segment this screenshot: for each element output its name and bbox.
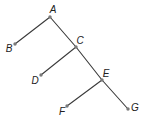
node-g-dot [126,107,129,110]
edge-e-f [67,80,102,106]
tree-diagram: A B C D E F G [0,0,145,121]
edge-e-g [102,80,128,109]
node-label-f: F [59,107,65,117]
edge-a-c [50,17,76,47]
node-label-b: B [6,44,13,54]
node-label-g: G [131,103,139,113]
node-label-e: E [103,69,110,79]
node-d-dot [39,73,42,76]
node-label-c: C [76,36,83,46]
node-b-dot [13,42,16,45]
node-label-d: D [31,76,38,86]
nodes-group [13,15,129,110]
edge-a-b [15,17,50,44]
node-label-a: A [50,5,57,15]
node-a-dot [48,15,51,18]
node-f-dot [65,104,68,107]
edge-c-e [76,47,102,80]
tree-diagram-graphic [0,0,145,121]
edge-c-d [41,47,76,75]
edges-group [15,17,128,109]
